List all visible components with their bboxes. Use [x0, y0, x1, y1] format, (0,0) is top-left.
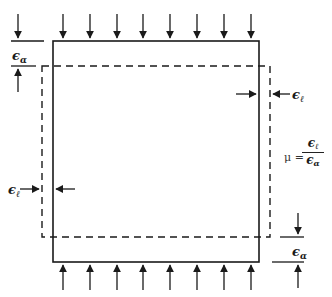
- original-square: [53, 41, 259, 262]
- poisson-formula-fraction: ϵℓ ϵα: [302, 137, 324, 168]
- top-load-arrows: [63, 14, 251, 38]
- lateral-strain-label-right: ϵℓ: [292, 86, 304, 102]
- bottom-load-arrows: [63, 265, 251, 290]
- fraction-denominator: ϵα: [306, 154, 319, 168]
- axial-strain-label-bottom: ϵα: [292, 243, 307, 259]
- poisson-formula-lhs: μ =: [284, 152, 304, 163]
- deformed-rectangle: [42, 66, 270, 237]
- fraction-numerator: ϵℓ: [308, 137, 319, 151]
- lateral-strain-label-left: ϵℓ: [8, 181, 20, 197]
- axial-strain-label-top: ϵα: [12, 47, 27, 63]
- poisson-ratio-diagram: [0, 0, 332, 297]
